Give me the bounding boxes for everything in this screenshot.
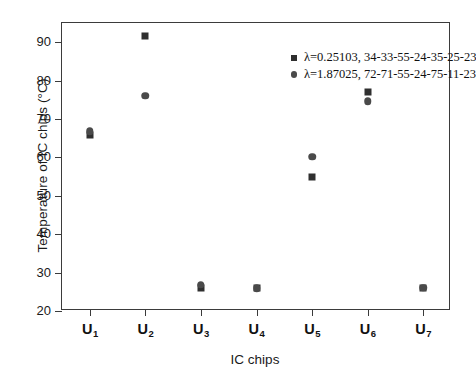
x-axis-tick-label: U4	[249, 321, 265, 337]
y-axis-tick: 50	[55, 196, 62, 197]
data-point-circle	[308, 153, 316, 161]
data-point-square	[142, 33, 149, 40]
data-point-circle	[197, 281, 205, 289]
plot-area: 2030405060708090 U1U2U3U4U5U6U7 λ=0.2510…	[61, 22, 450, 310]
x-axis-tick-label: U7	[415, 321, 431, 337]
x-axis-tick	[423, 309, 424, 316]
x-axis-tick	[201, 309, 202, 316]
y-axis-tick: 60	[55, 157, 62, 158]
legend-item: λ=0.25103, 34-33-55-24-35-25-23	[284, 49, 476, 66]
x-axis-tick	[257, 309, 258, 316]
x-axis-tick	[145, 309, 146, 316]
y-axis-tick: 80	[55, 81, 62, 82]
y-axis-tick-label: 30	[37, 265, 51, 280]
y-axis-tick: 40	[55, 234, 62, 235]
legend-marker-square-icon	[284, 55, 304, 61]
data-point-circle	[86, 128, 94, 136]
x-axis-tick	[368, 309, 369, 316]
y-axis-tick-label: 80	[37, 73, 51, 88]
x-axis-tick-label: U5	[304, 321, 320, 337]
legend-label: λ=0.25103, 34-33-55-24-35-25-23	[304, 49, 476, 66]
x-axis-tick	[90, 309, 91, 316]
data-point-circle	[364, 98, 372, 106]
data-point-circle	[142, 92, 150, 100]
y-axis-tick-label: 90	[37, 34, 51, 49]
y-axis-tick-label: 40	[37, 226, 51, 241]
data-point-square	[309, 173, 316, 180]
data-point-square	[364, 88, 371, 95]
legend-label: λ=1.87025, 72-71-55-24-75-11-23	[304, 66, 476, 83]
y-axis-tick-label: 20	[37, 303, 51, 318]
x-axis-tick-label: U3	[193, 321, 209, 337]
y-axis-tick: 20	[55, 311, 62, 312]
y-axis-tick-label: 50	[37, 188, 51, 203]
legend-item: λ=1.87025, 72-71-55-24-75-11-23	[284, 66, 476, 83]
x-axis-tick-label: U6	[360, 321, 376, 337]
data-point-circle	[253, 285, 261, 293]
x-axis-tick-label: U2	[137, 321, 153, 337]
y-axis-tick-label: 70	[37, 111, 51, 126]
y-axis-tick: 90	[55, 42, 62, 43]
x-axis-tick-label: U1	[82, 321, 98, 337]
x-axis-title: IC chips	[55, 352, 455, 367]
chart-legend: λ=0.25103, 34-33-55-24-35-25-23λ=1.87025…	[284, 49, 476, 83]
data-point-circle	[419, 284, 427, 292]
legend-marker-circle-icon	[284, 71, 304, 78]
y-axis-tick: 70	[55, 119, 62, 120]
x-axis-tick	[312, 309, 313, 316]
y-axis-tick: 30	[55, 273, 62, 274]
y-axis-tick-label: 60	[37, 149, 51, 164]
